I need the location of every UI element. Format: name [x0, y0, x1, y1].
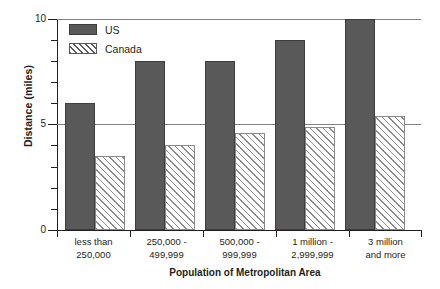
legend-item-canada[interactable]: Canada [69, 39, 179, 58]
category-label-5: 3 million and more [349, 236, 422, 261]
category-label-5-line-2: and more [349, 249, 422, 262]
x-axis-line [57, 230, 422, 231]
y-axis-tick-labels: 10 5 0 [16, 0, 46, 289]
bar-us-3[interactable] [205, 61, 235, 230]
bar-us-2[interactable] [135, 61, 165, 230]
x-axis-title: Population of Metropolitan Area [60, 267, 430, 278]
category-label-3: 500,000 - 999,999 [203, 236, 276, 261]
category-label-2: 250,000 - 499,999 [130, 236, 203, 261]
category-label-4-line-2: 2,999,999 [276, 249, 349, 262]
bar-canada-2[interactable] [165, 145, 195, 230]
category-label-4-line-1: 1 million - [276, 236, 349, 249]
category-label-2-line-2: 499,999 [130, 249, 203, 262]
y-tick-major-5 [48, 124, 57, 125]
bar-group-3 [205, 19, 265, 230]
bar-chart: Distance (miles) 10 5 0 [0, 0, 440, 289]
y-tick-major-10 [48, 19, 57, 20]
bar-canada-4[interactable] [305, 127, 335, 230]
y-tick-label-0: 0 [20, 224, 46, 235]
legend: US Canada [69, 20, 179, 58]
legend-swatch-us-icon [69, 24, 97, 35]
category-label-5-line-1: 3 million [349, 236, 422, 249]
category-label-1-line-2: 250,000 [57, 249, 130, 262]
category-label-1-line-1: less than [57, 236, 130, 249]
bar-us-1[interactable] [65, 103, 95, 230]
category-label-2-line-1: 250,000 - [130, 236, 203, 249]
y-tick-label-10: 10 [20, 13, 46, 24]
legend-item-us[interactable]: US [69, 20, 179, 39]
bar-us-4[interactable] [275, 40, 305, 230]
bar-canada-5[interactable] [375, 116, 405, 230]
y-tick-major-0 [48, 230, 57, 231]
bar-us-5[interactable] [345, 19, 375, 230]
category-label-4: 1 million - 2,999,999 [276, 236, 349, 261]
bar-group-4 [275, 19, 335, 230]
category-label-3-line-1: 500,000 - [203, 236, 276, 249]
category-label-1: less than 250,000 [57, 236, 130, 261]
category-label-3-line-2: 999,999 [203, 249, 276, 262]
legend-label-us: US [105, 24, 120, 36]
bar-group-5 [345, 19, 405, 230]
legend-swatch-canada-icon [69, 43, 97, 54]
bar-canada-3[interactable] [235, 133, 265, 230]
legend-label-canada: Canada [105, 43, 142, 55]
y-tick-label-5: 5 [20, 118, 46, 129]
bar-canada-1[interactable] [95, 156, 125, 230]
